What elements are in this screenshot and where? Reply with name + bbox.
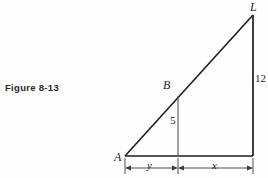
- dimension-label-y: y: [147, 159, 152, 171]
- measure-label-vertical-leg: 12: [255, 72, 266, 84]
- dimension-label-x: x: [212, 159, 217, 171]
- hypotenuse-line: [125, 15, 253, 156]
- arrowhead-y-left: [125, 166, 131, 171]
- vertex-label-L: L: [250, 0, 257, 15]
- arrowhead-x-right: [247, 166, 253, 171]
- measure-label-mid-segment: 5: [170, 114, 176, 126]
- figure-page: Figure 8-13 L B A 12 5 y x: [0, 0, 268, 178]
- vertex-label-A: A: [114, 150, 121, 165]
- triangle-diagram: [0, 0, 268, 178]
- arrowhead-y-right: [172, 166, 178, 171]
- arrowhead-x-left: [178, 166, 184, 171]
- vertex-label-B: B: [163, 78, 170, 93]
